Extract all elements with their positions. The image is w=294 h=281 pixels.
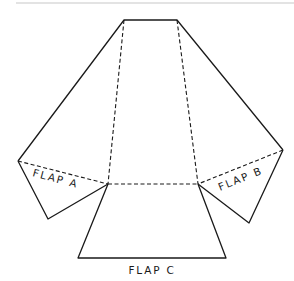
- folding-net-diagram: FLAP A FLAP B FLAP C: [0, 0, 294, 281]
- flap-a-outline: [18, 161, 108, 219]
- flap-c-label: FLAP C: [128, 264, 175, 276]
- flap-c-outline: [78, 184, 226, 258]
- flap-b-outline: [198, 150, 283, 223]
- fold-line-right: [177, 20, 198, 184]
- flap-a-label: FLAP A: [31, 166, 79, 190]
- fold-line-left: [108, 20, 124, 184]
- main-panel-outline: [18, 20, 283, 161]
- flap-b-label: FLAP B: [216, 164, 264, 193]
